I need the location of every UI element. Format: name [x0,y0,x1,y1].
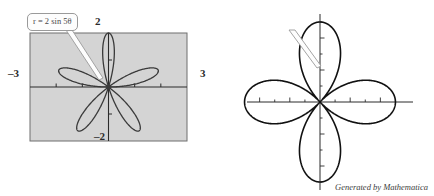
left-y-min-label: –2 [94,131,105,142]
left-polar-plot-panel: r = 2 sin 5θ –3 3 2 –2 [0,0,217,196]
right-polar-plot-panel: r = 0.5 cos 2θ π/2 –0.4 –0.2 0.2 0.4 0 0… [217,0,434,196]
left-x-max-label: 3 [200,68,206,79]
left-equation-callout: r = 2 sin 5θ [27,13,78,31]
left-y-max-label: 2 [95,16,101,27]
right-axes [245,14,413,190]
right-plot-canvas [217,0,434,196]
left-equation-text: r = 2 sin 5θ [33,16,72,26]
left-x-min-label: –3 [8,68,19,79]
right-callout-leader [289,30,321,68]
polar-rose-figure: r = 2 sin 5θ –3 3 2 –2 r = 0.5 cos 2θ π/… [0,0,434,196]
credit-text: Generated by Mathematica [335,182,428,192]
